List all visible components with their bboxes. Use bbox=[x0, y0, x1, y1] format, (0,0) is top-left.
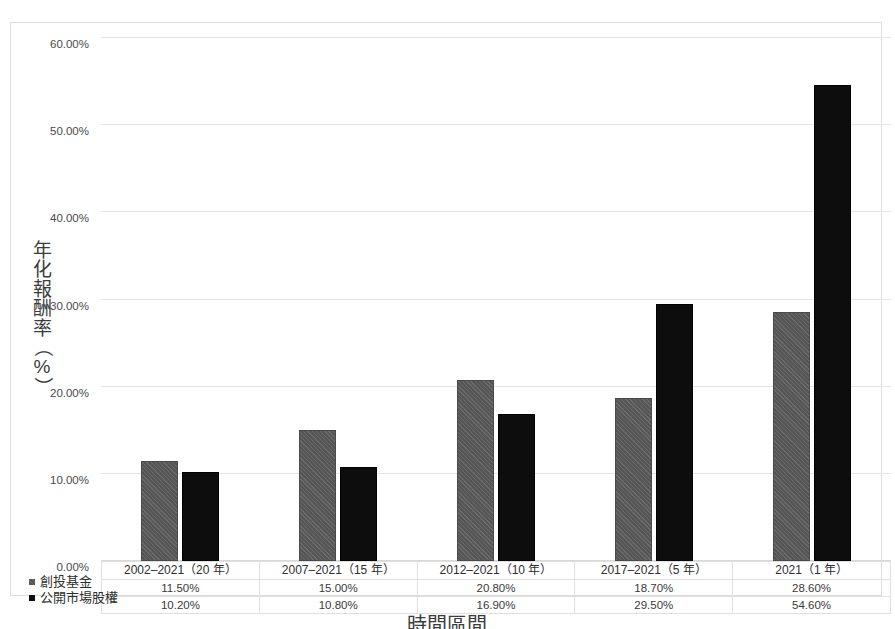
bar-series-b bbox=[182, 472, 219, 561]
data-value-cell: 15.00% bbox=[259, 580, 417, 597]
bar-group bbox=[259, 38, 417, 561]
y-axis-title-char: 報 bbox=[25, 280, 59, 299]
table-row: 11.50%15.00%20.80%18.70%28.60% bbox=[102, 580, 891, 597]
data-value-cell: 18.70% bbox=[575, 580, 733, 597]
category-label-cell: 2007–2021（15 年） bbox=[259, 562, 417, 580]
legend-swatch-icon bbox=[29, 579, 35, 585]
bar-group bbox=[575, 38, 733, 561]
chart-legend: 創投基金公開市場股權 bbox=[29, 574, 101, 606]
data-value-cell: 11.50% bbox=[102, 580, 260, 597]
legend-swatch-icon bbox=[29, 595, 35, 601]
bar-series-a bbox=[457, 380, 494, 561]
legend-label: 創投基金 bbox=[40, 574, 92, 590]
bar-series-b bbox=[498, 414, 535, 561]
category-label-cell: 2017–2021（5 年） bbox=[575, 562, 733, 580]
bar-series-b bbox=[814, 85, 851, 561]
table-row: 2002–2021（20 年）2007–2021（15 年）2012–2021（… bbox=[102, 562, 891, 580]
y-axis-title-char: （ bbox=[32, 331, 51, 365]
legend-item[interactable]: 創投基金 bbox=[29, 574, 101, 590]
legend-item[interactable]: 公開市場股權 bbox=[29, 590, 101, 606]
bar-series-b bbox=[340, 467, 377, 561]
bar-series-b bbox=[656, 304, 693, 561]
data-table: 2002–2021（20 年）2007–2021（15 年）2012–2021（… bbox=[101, 561, 891, 614]
category-label-cell: 2021（1 年） bbox=[733, 562, 891, 580]
y-axis-title: 年化報酬率（%） bbox=[25, 241, 59, 396]
bar-series-a bbox=[141, 461, 178, 561]
bottom-caption bbox=[0, 617, 895, 629]
bar-series-a bbox=[299, 430, 336, 561]
legend-label: 公開市場股權 bbox=[40, 590, 118, 606]
data-value-cell: 28.60% bbox=[733, 580, 891, 597]
bar-group bbox=[101, 38, 259, 561]
bar-group bbox=[733, 38, 891, 561]
bar-group bbox=[417, 38, 575, 561]
bar-series-a bbox=[615, 398, 652, 561]
data-value-cell: 20.80% bbox=[417, 580, 575, 597]
data-table-body: 2002–2021（20 年）2007–2021（15 年）2012–2021（… bbox=[102, 562, 891, 614]
category-label-cell: 2002–2021（20 年） bbox=[102, 562, 260, 580]
bar-series-a bbox=[773, 312, 810, 561]
chart-page: 年化報酬率（%） 0.00%10.00%20.00%30.00%40.00%50… bbox=[0, 0, 895, 629]
category-label-cell: 2012–2021（10 年） bbox=[417, 562, 575, 580]
chart-frame: 年化報酬率（%） 0.00%10.00%20.00%30.00%40.00%50… bbox=[10, 22, 882, 596]
y-axis-title-char: 化 bbox=[25, 260, 59, 279]
y-axis-title-char: 年 bbox=[25, 241, 59, 260]
plot-area: 0.00%10.00%20.00%30.00%40.00%50.00%60.00… bbox=[101, 38, 891, 561]
